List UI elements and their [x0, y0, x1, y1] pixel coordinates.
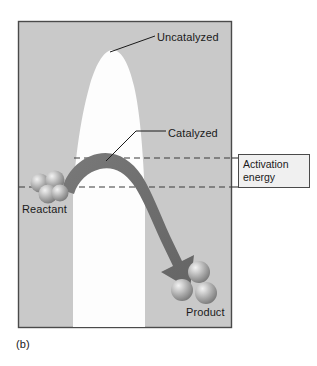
- label-catalyzed: Catalyzed: [168, 127, 218, 139]
- figure-caption: (b): [16, 338, 30, 350]
- label-reactant: Reactant: [22, 203, 67, 215]
- label-uncatalyzed: Uncatalyzed: [157, 31, 219, 43]
- figure-root: Uncatalyzed Catalyzed Reactant Product A…: [0, 0, 317, 366]
- label-product: Product: [186, 306, 225, 318]
- activation-energy-label: Activation energy: [243, 158, 307, 184]
